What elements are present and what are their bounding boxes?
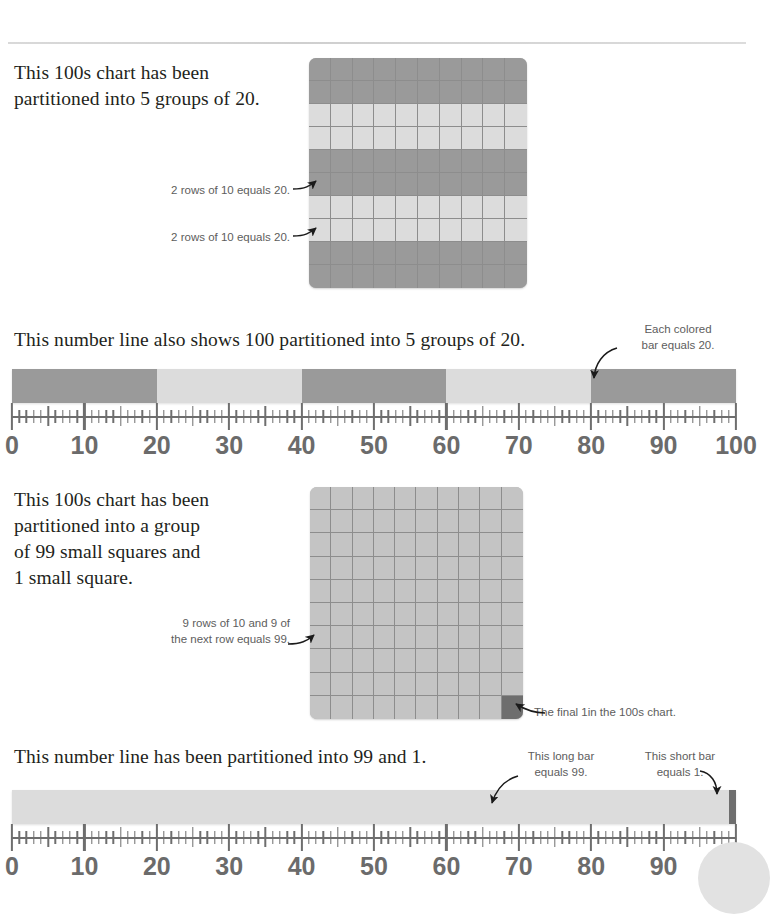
hundreds-chart-cell [416, 649, 437, 672]
hundreds-chart-cell [418, 58, 440, 81]
number-line-minor-tick [286, 831, 287, 844]
number-line-segment [729, 790, 736, 824]
number-line-minor-tick [576, 410, 577, 423]
hundreds-chart-cell [353, 219, 375, 242]
hundreds-chart-cell [331, 150, 353, 173]
hundreds-chart-cell [459, 510, 480, 533]
number-line-minor-tick [511, 410, 512, 423]
hundreds-chart-cell [438, 673, 459, 696]
hundreds-chart-cell [396, 127, 418, 150]
number-line-minor-tick [105, 831, 106, 844]
hundreds-chart-cell [331, 127, 353, 150]
hundreds-chart-cell [459, 580, 480, 603]
number-line-mid-tick [627, 406, 628, 426]
hundreds-chart-cell [331, 626, 352, 649]
hundreds-chart-cell [483, 104, 505, 127]
hundreds-chart-cell [505, 265, 527, 288]
hundreds-chart-cell [505, 219, 527, 242]
number-line-minor-tick [221, 410, 222, 423]
number-line-minor-tick [142, 410, 143, 423]
number-line-major-tick [11, 403, 13, 430]
number-line-major-tick [518, 403, 520, 430]
number-line-minor-tick [598, 831, 599, 844]
number-line-minor-tick [525, 410, 526, 423]
number-line-mid-tick [265, 406, 266, 426]
number-line-minor-tick [352, 831, 353, 844]
number-line-minor-tick [634, 410, 635, 423]
number-line-tick-label: 30 [215, 431, 243, 460]
hundreds-chart-cell [459, 557, 480, 580]
number-line-minor-tick [142, 831, 143, 844]
number-line-minor-tick [605, 410, 606, 423]
number-line-minor-tick [308, 831, 309, 844]
hundreds-chart-cell [416, 510, 437, 533]
callout-short-bar-1: This short bar equals 1. [624, 748, 736, 780]
hundreds-chart-cell [331, 603, 352, 626]
number-line-minor-tick [634, 831, 635, 844]
number-line-minor-tick [185, 410, 186, 423]
number-line-minor-tick [612, 410, 613, 423]
hundreds-chart-cell [331, 219, 353, 242]
number-line-minor-tick [243, 831, 244, 844]
number-line-segment [157, 369, 302, 403]
callout-long-bar-99-line-2: equals 99. [505, 764, 617, 780]
number-line-tick-label: 40 [288, 852, 316, 881]
hundreds-chart-cell [483, 58, 505, 81]
number-line-mid-tick [337, 406, 338, 426]
section-1-prose: This 100s chart has been partitioned int… [14, 60, 294, 112]
hundreds-chart-cell [440, 127, 462, 150]
number-line-minor-tick [402, 831, 403, 844]
number-line-minor-tick [381, 831, 382, 844]
hundreds-chart-cell [462, 219, 484, 242]
number-line-minor-tick [569, 410, 570, 423]
callout-2-rows-of-10-a: 2 rows of 10 equals 20. [0, 182, 290, 198]
number-line-minor-tick [149, 831, 150, 844]
hundreds-chart-cell [440, 196, 462, 219]
hundreds-chart-cell [310, 487, 331, 510]
hundreds-chart-cell [502, 626, 523, 649]
hundreds-chart-cell [331, 487, 352, 510]
hundreds-chart-cell [331, 173, 353, 196]
hundreds-chart-cell [505, 127, 527, 150]
hundreds-chart-cell [418, 104, 440, 127]
number-line-minor-tick [656, 410, 657, 423]
hundreds-chart-cell [416, 603, 437, 626]
hundreds-chart-cell [418, 173, 440, 196]
hundreds-chart-cell [438, 533, 459, 556]
number-line-minor-tick [113, 410, 114, 423]
hundreds-chart-cell [353, 58, 375, 81]
number-line-minor-tick [236, 410, 237, 423]
callout-final-one-text: The final 1in the 100s chart. [534, 706, 676, 718]
number-line-minor-tick [40, 831, 41, 844]
number-line-minor-tick [330, 410, 331, 423]
hundreds-chart-cell [310, 533, 331, 556]
number-line-minor-tick [424, 410, 425, 423]
hundreds-chart-cell [483, 219, 505, 242]
hundreds-chart-cell [353, 196, 375, 219]
number-line-minor-tick [460, 410, 461, 423]
hundreds-chart-cell [395, 487, 416, 510]
number-line-minor-tick [113, 831, 114, 844]
hundreds-chart-cell [416, 557, 437, 580]
hundreds-chart-cell [374, 696, 395, 719]
hundreds-chart-cell [483, 196, 505, 219]
number-line-minor-tick [453, 831, 454, 844]
hundreds-chart-cell [353, 580, 374, 603]
number-line-minor-tick [250, 410, 251, 423]
number-line-major-tick [445, 824, 447, 851]
number-line-minor-tick [619, 831, 620, 844]
number-line-minor-tick [91, 410, 92, 423]
callout-2-rows-of-10-b-text: 2 rows of 10 equals 20. [171, 231, 290, 243]
number-line-major-tick [590, 824, 592, 851]
hundreds-chart-cell [418, 127, 440, 150]
number-line-tick-label: 70 [505, 431, 533, 460]
hundreds-chart-cell [374, 265, 396, 288]
number-line-1-ruler [12, 403, 736, 431]
section-1-prose-line-1: This 100s chart has been [14, 60, 294, 86]
hundreds-chart-cell [374, 104, 396, 127]
number-line-minor-tick [525, 831, 526, 844]
number-line-minor-tick [127, 410, 128, 423]
number-line-tick-label: 90 [650, 852, 678, 881]
section-4-prose-line-1: This number line has been partitioned in… [14, 744, 534, 770]
number-line-tick-label: 50 [360, 852, 388, 881]
